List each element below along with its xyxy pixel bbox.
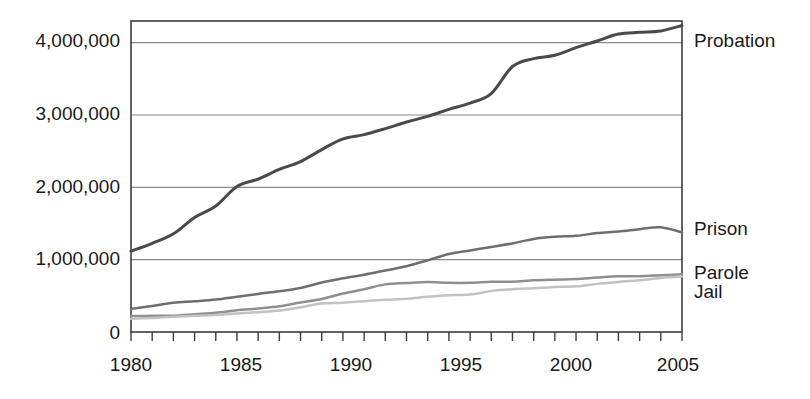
series-label-parole: Parole <box>694 262 749 283</box>
y-tick-label-0: 0 <box>109 322 120 343</box>
y-tick-label-3000000: 3,000,000 <box>35 103 120 124</box>
series-line-prison <box>131 227 682 309</box>
series-lines <box>131 26 682 319</box>
line-chart: 4,000,000 3,000,000 2,000,000 1,000,000 … <box>0 0 810 399</box>
chart-figure: 4,000,000 3,000,000 2,000,000 1,000,000 … <box>0 0 810 399</box>
y-tick-label-4000000: 4,000,000 <box>35 30 120 51</box>
y-tick-label-1000000: 1,000,000 <box>35 248 120 269</box>
series-line-probation <box>131 26 682 252</box>
gridlines <box>131 43 682 260</box>
series-label-jail: Jail <box>694 281 723 302</box>
x-tick-label-2005: 2005 <box>657 354 699 375</box>
x-tick-label-1995: 1995 <box>440 354 482 375</box>
plot-frame <box>131 21 682 332</box>
x-tick-label-1980: 1980 <box>110 354 152 375</box>
x-axis-ticks <box>131 332 682 341</box>
plot-border <box>131 21 682 332</box>
x-tick-label-2000: 2000 <box>550 354 592 375</box>
x-tick-label-1985: 1985 <box>220 354 262 375</box>
y-tick-label-2000000: 2,000,000 <box>35 176 120 197</box>
series-label-prison: Prison <box>694 218 748 239</box>
x-tick-label-1990: 1990 <box>330 354 372 375</box>
series-label-probation: Probation <box>694 30 775 51</box>
series-line-parole <box>131 274 682 316</box>
